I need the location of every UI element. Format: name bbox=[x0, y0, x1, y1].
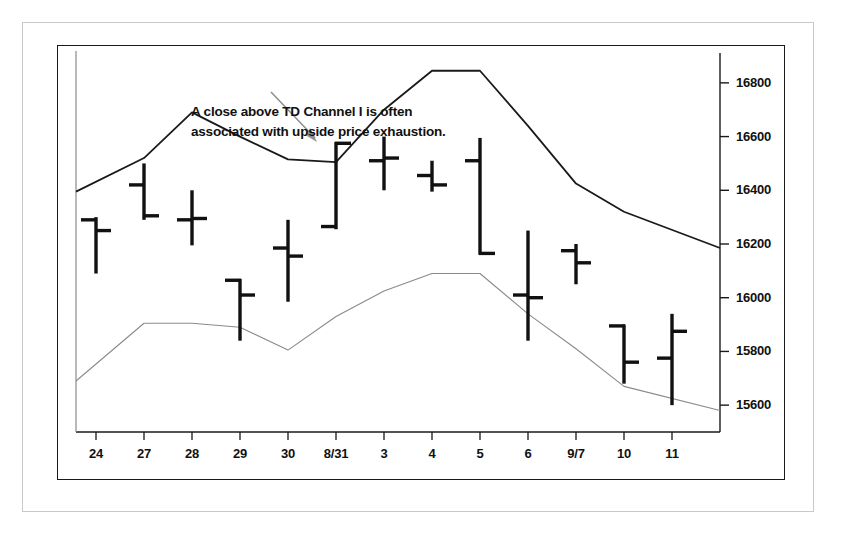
x-axis-ticks bbox=[96, 432, 672, 440]
ohlc-bar bbox=[81, 217, 111, 273]
y-axis-tick-label: 16400 bbox=[736, 182, 771, 197]
y-axis-tick-label: 16600 bbox=[736, 129, 771, 144]
ohlc-bar bbox=[273, 220, 303, 302]
x-axis-tick-label: 24 bbox=[89, 446, 103, 461]
x-axis-tick-label: 8/31 bbox=[324, 446, 349, 461]
x-axis-tick-label: 3 bbox=[380, 446, 387, 461]
ohlc-bar bbox=[513, 231, 543, 341]
chart-plot-frame: A close above TD Channel I is often asso… bbox=[57, 45, 785, 480]
chart-page: A close above TD Channel I is often asso… bbox=[0, 0, 846, 534]
y-axis-group bbox=[720, 53, 729, 432]
x-axis-tick-label: 27 bbox=[137, 446, 151, 461]
ohlc-bar bbox=[129, 163, 159, 219]
annotation-text-line-1: A close above TD Channel I is often bbox=[191, 102, 412, 121]
y-axis-tick-label: 15800 bbox=[736, 343, 771, 358]
ohlc-bar bbox=[225, 279, 255, 341]
ohlc-bar bbox=[177, 190, 207, 245]
x-axis-tick-label: 28 bbox=[185, 446, 199, 461]
y-axis-tick-label: 15600 bbox=[736, 397, 771, 412]
x-axis-tick-label: 30 bbox=[281, 446, 295, 461]
ohlc-price-chart bbox=[58, 46, 784, 479]
ohlc-bar bbox=[561, 244, 591, 284]
x-axis-group bbox=[76, 432, 720, 440]
annotation-text-line-2: associated with upside price exhaustion. bbox=[191, 122, 446, 141]
x-axis-tick-label: 10 bbox=[617, 446, 631, 461]
ohlc-bar bbox=[321, 142, 351, 229]
ohlc-bar bbox=[609, 325, 639, 384]
x-axis-tick-label: 5 bbox=[476, 446, 483, 461]
x-axis-tick-label: 9/7 bbox=[567, 446, 584, 461]
x-axis-tick-label: 11 bbox=[665, 446, 678, 461]
ohlc-bar bbox=[417, 161, 447, 192]
ohlc-bar bbox=[465, 138, 495, 255]
ohlc-bar bbox=[369, 137, 399, 191]
x-axis-tick-label: 29 bbox=[233, 446, 247, 461]
y-axis-tick-label: 16200 bbox=[736, 236, 771, 251]
x-axis-tick-label: 4 bbox=[428, 446, 435, 461]
x-axis-tick-label: 6 bbox=[524, 446, 531, 461]
y-axis-tick-label: 16000 bbox=[736, 290, 771, 305]
ohlc-bar bbox=[657, 314, 687, 405]
y-axis-ticks bbox=[720, 83, 729, 405]
y-axis-tick-label: 16800 bbox=[736, 75, 771, 90]
